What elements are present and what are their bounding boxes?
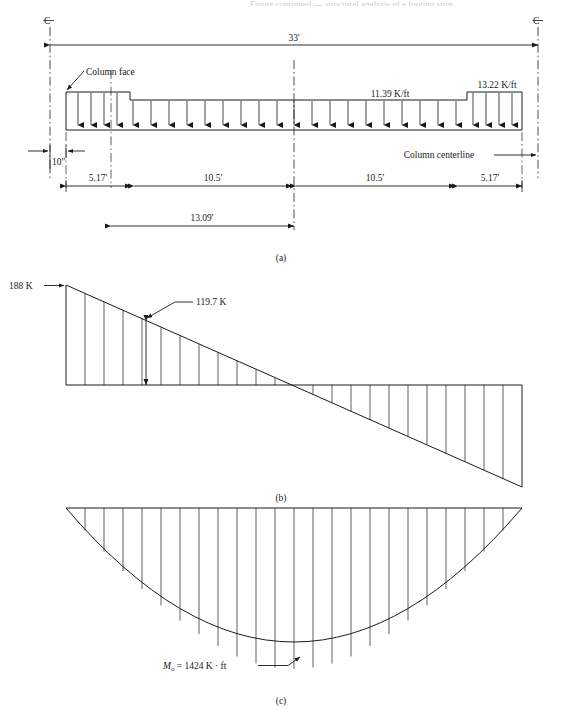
part-label-a: (a) (276, 253, 287, 264)
part-label-b: (b) (275, 493, 286, 504)
svg-text:C: C (533, 16, 539, 26)
part-label-c: (c) (276, 696, 287, 707)
centerline-symbol-left: C (44, 16, 55, 26)
column-centerline-label: Column centerline (404, 150, 474, 160)
load-arrows-interior (133, 101, 456, 125)
dimension-overall-label: 33' (288, 33, 300, 43)
svg-text:C: C (44, 16, 50, 26)
part-b-shear-diagram: 188 K 119.7 K (b) (9, 281, 522, 504)
column-face-label: Column face (86, 67, 135, 77)
shear-hatch-positive (85, 293, 275, 385)
moment-value-label: Mo = 1424 K · ft (162, 661, 227, 672)
moment-equals: = (174, 661, 184, 671)
shear-line (66, 285, 522, 487)
shear-119-label: 119.7 K (196, 297, 226, 307)
part-c-moment-diagram: Mo = 1424 K · ft (c) (66, 508, 522, 707)
part-a-load-diagram: C C 33' Column face (28, 16, 543, 264)
dimension-label-4: 5.17' (481, 173, 500, 183)
dimension-label-2: 10.5' (204, 173, 223, 183)
shear-max-label: 188 K (9, 281, 33, 291)
column-face-leader (67, 71, 84, 90)
edge-offset-label: 10" (52, 157, 66, 167)
structural-diagram-svg: C C 33' Column face (0, 0, 562, 714)
cropped-header-text: Figure continued — structural analysis o… (250, 0, 550, 6)
moment-hatch (85, 508, 503, 669)
dimension-label-13-09: 13.09' (190, 213, 213, 223)
load-label-interior: 11.39 K/ft (371, 89, 410, 99)
dimension-label-3: 10.5' (366, 173, 385, 183)
load-label-end: 13.22 K/ft (477, 80, 516, 90)
moment-magnitude: 1424 K · ft (184, 661, 226, 671)
shear-hatch-negative (313, 385, 503, 479)
load-arrows-right-end (473, 93, 512, 125)
dimension-label-1: 5.17' (89, 173, 108, 183)
centerline-symbol-right: C (533, 16, 544, 26)
figure-root: Figure continued — structural analysis o… (0, 0, 562, 714)
shear-119-leader (147, 302, 175, 318)
